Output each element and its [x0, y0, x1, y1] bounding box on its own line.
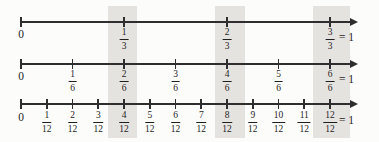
fraction-label: 1012	[272, 111, 286, 136]
tick-mark	[72, 59, 74, 69]
axis-line	[21, 63, 351, 65]
fraction-numerator: 1	[68, 70, 77, 82]
fraction-label: 212	[68, 111, 78, 136]
axis-line	[21, 103, 351, 105]
fraction-label: 512	[145, 111, 155, 136]
tick-mark	[20, 59, 22, 69]
fraction-denominator: 6	[274, 82, 283, 93]
fraction-numerator: 9	[248, 111, 258, 123]
tick-mark	[72, 99, 74, 109]
zero-label: 0	[18, 112, 24, 124]
fraction-numerator: 3	[94, 111, 104, 123]
fraction: 212	[68, 111, 78, 134]
fraction: 1012	[272, 111, 286, 134]
zero-label: 0	[18, 71, 24, 83]
fraction: 612	[171, 111, 181, 134]
fraction-denominator: 12	[145, 123, 155, 134]
tick-mark	[97, 99, 99, 109]
highlight-band	[108, 6, 137, 138]
fraction: 16	[68, 70, 77, 93]
fraction-numerator: 11	[298, 111, 311, 123]
fraction-label: 36	[171, 70, 180, 95]
fraction-numerator: 2	[68, 111, 78, 123]
highlight-band	[215, 6, 245, 138]
fraction-numerator: 7	[197, 111, 207, 123]
fraction-label: 16	[68, 70, 77, 95]
fraction: 912	[248, 111, 258, 134]
fraction: 36	[171, 70, 180, 93]
fraction-denominator: 12	[248, 123, 258, 134]
fraction-label: 56	[274, 70, 283, 95]
fraction: 512	[145, 111, 155, 134]
tick-mark	[175, 59, 177, 69]
tick-mark	[20, 99, 22, 109]
zero-label: 0	[18, 29, 24, 41]
tick-mark	[303, 99, 305, 109]
axis-arrowhead	[350, 18, 358, 26]
tick-mark	[20, 17, 22, 27]
tick-mark	[200, 99, 202, 109]
axis-arrowhead	[350, 60, 358, 68]
fraction-denominator: 6	[68, 82, 77, 93]
fraction-denominator: 12	[171, 123, 181, 134]
fraction: 1112	[298, 111, 311, 134]
fraction-denominator: 12	[197, 123, 207, 134]
fraction-denominator: 12	[298, 123, 311, 134]
fraction-denominator: 12	[94, 123, 104, 134]
fraction-numerator: 5	[274, 70, 283, 82]
fraction-numerator: 6	[171, 111, 181, 123]
fraction-numerator: 5	[145, 111, 155, 123]
tick-mark	[278, 99, 280, 109]
axis-arrowhead	[350, 100, 358, 108]
tick-mark	[278, 59, 280, 69]
fraction-numerator: 10	[272, 111, 286, 123]
fraction-denominator: 12	[272, 123, 286, 134]
fraction-label: 712	[197, 111, 207, 136]
tick-mark	[46, 99, 48, 109]
fraction: 112	[42, 111, 52, 134]
fraction-label: 1112	[298, 111, 311, 136]
fraction: 312	[94, 111, 104, 134]
fraction-denominator: 12	[42, 123, 52, 134]
fraction-label: 312	[94, 111, 104, 136]
fraction-label: 912	[248, 111, 258, 136]
axis-line	[21, 21, 351, 23]
fraction-denominator: 12	[68, 123, 78, 134]
fraction: 712	[197, 111, 207, 134]
fraction: 56	[274, 70, 283, 93]
tick-mark	[252, 99, 254, 109]
highlight-band	[313, 6, 350, 138]
fraction-numerator: 3	[171, 70, 180, 82]
fraction-number-lines-figure: 0132333= 10162636465666= 101122123124125…	[0, 0, 379, 142]
fraction-denominator: 6	[171, 82, 180, 93]
fraction-label: 112	[42, 111, 52, 136]
fraction-numerator: 1	[42, 111, 52, 123]
fraction-label: 612	[171, 111, 181, 136]
tick-mark	[175, 99, 177, 109]
tick-mark	[149, 99, 151, 109]
